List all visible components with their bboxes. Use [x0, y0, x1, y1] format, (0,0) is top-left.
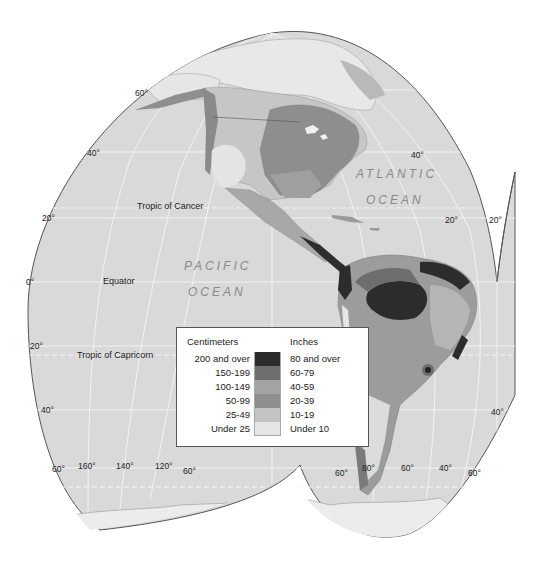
lat-label-20n-far: 20° [489, 215, 502, 225]
equator-label: Equator [103, 276, 135, 286]
legend-in-header: Inches [290, 336, 318, 347]
legend-cm-value: 100-149 [215, 380, 250, 394]
lat-label-40n-right: 40° [411, 150, 424, 160]
lat-label-60s-sa: 60° [335, 468, 348, 478]
lat-label-20s-left: 20° [30, 341, 43, 351]
legend-row: Under 25 Under 10 [177, 422, 370, 436]
atlantic-label: ATLANTIC [356, 167, 437, 181]
legend-row: 200 and over 80 and over [177, 352, 370, 366]
legend-row: 150-199 60-79 [177, 366, 370, 380]
legend-swatch [254, 394, 281, 408]
lat-label-40s-right: 40° [491, 407, 504, 417]
legend-cm-value: 50-99 [226, 394, 250, 408]
legend-swatch [254, 366, 281, 380]
legend-swatch [254, 422, 281, 436]
lon-label-120: 120° [155, 461, 173, 471]
legend-row: 50-99 20-39 [177, 394, 370, 408]
lon-label-40: 40° [439, 463, 452, 473]
legend-cm-value: 200 and over [195, 352, 250, 366]
lon-label-140: 140° [116, 461, 134, 471]
precipitation-map [0, 0, 544, 573]
legend-cm-header: Centimeters [187, 336, 238, 347]
legend-in-value: 10-19 [290, 408, 314, 422]
lat-label-0: 0° [26, 277, 34, 287]
lon-label-160: 160° [78, 461, 96, 471]
legend-swatch [254, 408, 281, 422]
legend-in-value: 40-59 [290, 380, 314, 394]
legend-cm-value: Under 25 [211, 422, 250, 436]
lat-label-40s-left: 40° [41, 405, 54, 415]
tropic-of-cancer-label: Tropic of Cancer [137, 201, 203, 211]
atlantic-ocean-label: OCEAN [366, 193, 424, 207]
precipitation-legend: Centimeters Inches 200 and over 80 and o… [176, 327, 369, 447]
legend-row: 100-149 40-59 [177, 380, 370, 394]
legend-swatch [254, 380, 281, 394]
tropic-of-capricorn-label: Tropic of Capricorn [77, 350, 153, 360]
legend-in-value: Under 10 [290, 422, 329, 436]
legend-in-value: 20-39 [290, 394, 314, 408]
legend-row: 25-49 10-19 [177, 408, 370, 422]
legend-cm-value: 25-49 [226, 408, 250, 422]
lat-label-60s-right: 60° [468, 468, 481, 478]
lat-label-60s-left: 60° [52, 464, 65, 474]
lat-label-40n-left: 40° [87, 148, 100, 158]
lon-label-60-left: 60° [183, 466, 196, 476]
lon-label-80: 80° [362, 463, 375, 473]
pacific-label: PACIFIC [184, 259, 251, 273]
lat-label-20n-left: 20° [42, 213, 55, 223]
legend-in-value: 60-79 [290, 366, 314, 380]
pacific-ocean-label: OCEAN [188, 285, 246, 299]
legend-in-value: 80 and over [290, 352, 340, 366]
legend-cm-value: 150-199 [215, 366, 250, 380]
legend-swatch [254, 352, 281, 366]
lat-label-20n-right: 20° [445, 215, 458, 225]
lon-label-60: 60° [401, 463, 414, 473]
lat-label-60n: 60° [135, 88, 148, 98]
